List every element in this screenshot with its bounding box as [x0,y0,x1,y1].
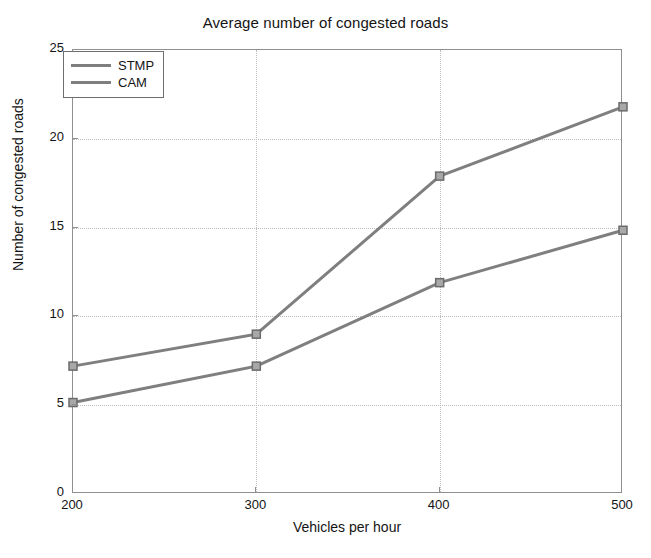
data-series-layer [73,50,623,494]
figure-canvas: Average number of congested roads 051015… [0,0,651,558]
y-tick-label: 20 [30,129,64,144]
y-tick-label: 25 [30,40,64,55]
plot-area [72,49,622,493]
data-point-marker [252,330,260,338]
x-tick-mark [439,487,440,493]
data-point-marker [436,279,444,287]
data-point-marker [619,226,627,234]
y-axis-label: Number of congested roads [10,98,26,271]
data-point-marker [619,103,627,111]
legend-box: STMPCAM [63,51,164,98]
x-tick-label: 300 [244,497,266,512]
series-line-stmp [73,107,623,366]
legend-item-stmp: STMP [71,57,154,74]
x-tick-label: 200 [61,497,83,512]
chart-title: Average number of congested roads [0,14,651,31]
data-point-marker [69,399,77,407]
data-point-marker [252,362,260,370]
legend-line-swatch [71,81,111,84]
y-tick-mark [72,404,78,405]
y-tick-label: 5 [30,395,64,410]
y-tick-mark [72,315,78,316]
data-point-marker [69,362,77,370]
y-tick-mark [72,138,78,139]
legend-item-cam: CAM [71,74,154,91]
data-point-marker [436,172,444,180]
y-tick-mark [72,227,78,228]
y-tick-label: 15 [30,218,64,233]
y-tick-label: 10 [30,306,64,321]
x-axis-label: Vehicles per hour [72,519,622,535]
legend-item-label: CAM [118,75,147,90]
x-tick-label: 500 [611,497,633,512]
legend-line-swatch [71,64,111,67]
x-tick-label: 400 [428,497,450,512]
x-tick-mark [255,487,256,493]
legend-item-label: STMP [118,58,154,73]
y-tick-label: 0 [30,484,64,499]
